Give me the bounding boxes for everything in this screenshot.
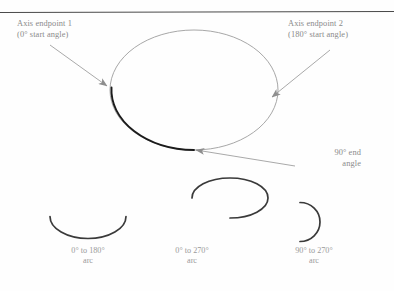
annotation-end-angle-line2: angle xyxy=(342,159,361,168)
annotation-axis-endpoint-2-line2: (180° start angle) xyxy=(288,30,348,39)
caption-arc-0-180-range: 0° to 180° xyxy=(71,246,104,255)
highlighted-arc-segment xyxy=(111,88,194,151)
annotation-axis-endpoint-1-line2: (0° start angle) xyxy=(17,30,68,39)
leader-line-endpoint2 xyxy=(272,50,330,97)
caption-arc-0-180: 0° to 180°arc xyxy=(42,246,134,267)
caption-arc-90-270-range: 90° to 270° xyxy=(295,246,332,255)
caption-arc-90-270: 90° to 270°arc xyxy=(268,246,360,267)
caption-arc-0-270-range: 0° to 270° xyxy=(175,246,208,255)
example-arc-90-270 xyxy=(300,203,320,242)
annotation-end-angle-line1: 90° end xyxy=(334,148,361,157)
leader-line-endpoint1 xyxy=(50,45,107,86)
example-arc-0-180 xyxy=(50,217,126,239)
annotation-end-angle: 90° endangle xyxy=(297,148,361,169)
caption-arc-0-270: 0° to 270°arc xyxy=(146,246,238,267)
top-divider-rule xyxy=(0,12,394,13)
caption-arc-0-270-kind: arc xyxy=(187,256,197,265)
example-arc-0-270 xyxy=(192,178,268,218)
annotation-axis-endpoint-2: Axis endpoint 2(180° start angle) xyxy=(288,19,348,40)
annotation-axis-endpoint-2-line1: Axis endpoint 2 xyxy=(288,19,343,28)
annotation-axis-endpoint-1-line1: Axis endpoint 1 xyxy=(17,19,72,28)
caption-arc-90-270-kind: arc xyxy=(309,256,319,265)
leader-line-endangle xyxy=(196,150,295,166)
caption-arc-0-180-kind: arc xyxy=(83,256,93,265)
annotation-axis-endpoint-1: Axis endpoint 1(0° start angle) xyxy=(17,19,72,40)
